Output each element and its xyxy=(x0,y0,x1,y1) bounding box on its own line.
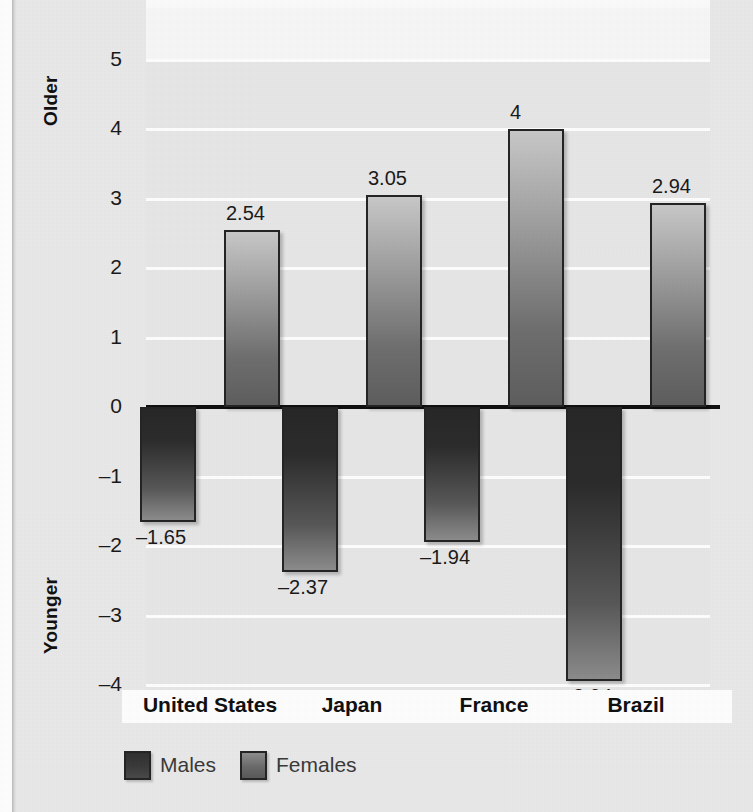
chart-legend: MalesFemales xyxy=(124,748,381,782)
gridline xyxy=(146,198,710,201)
scan-edge-shadow xyxy=(12,0,16,812)
gridline xyxy=(146,684,710,687)
y-axis-tick-label: 4 xyxy=(78,116,122,140)
bar-br-males xyxy=(566,407,622,681)
y-axis-tick-label: 2 xyxy=(78,255,122,279)
legend-item-males[interactable]: Males xyxy=(124,751,216,780)
y-axis-tick-label: –3 xyxy=(78,603,122,627)
bar-value-label-fr-females: 4 xyxy=(510,101,521,124)
bar-value-label-br-females: 2.94 xyxy=(652,175,691,198)
bar-value-label-us-males: –1.65 xyxy=(136,526,186,549)
bar-value-label-jp-females: 3.05 xyxy=(368,167,407,190)
chart-page: 543210–1–2–3–4 Older Younger –1.652.54–2… xyxy=(0,0,753,812)
legend-label-females: Females xyxy=(276,753,357,777)
bar-us-males xyxy=(140,407,196,522)
y-axis-tick-label: 3 xyxy=(78,186,122,210)
scan-gutter xyxy=(0,0,12,812)
bar-jp-females xyxy=(366,195,422,407)
bar-us-females xyxy=(224,230,280,407)
bar-br-females xyxy=(650,203,706,407)
bar-value-label-jp-males: –2.37 xyxy=(278,576,328,599)
bar-value-label-fr-males: –1.94 xyxy=(420,546,470,569)
bar-fr-females xyxy=(508,129,564,407)
y-axis-tick-label: 5 xyxy=(78,47,122,71)
axis-label-older: Older xyxy=(40,75,62,126)
category-label-br: Brazil xyxy=(546,693,726,717)
y-axis-tick-label: 1 xyxy=(78,325,122,349)
plot-area xyxy=(146,8,710,690)
gridline xyxy=(146,59,710,62)
bar-jp-males xyxy=(282,407,338,572)
y-axis-tick-label: –4 xyxy=(78,672,122,696)
gridline xyxy=(146,615,710,618)
legend-swatch-females-icon xyxy=(240,751,267,780)
gridline xyxy=(146,128,710,131)
y-axis-tick-label: 0 xyxy=(78,394,122,418)
plot-top-band xyxy=(146,8,710,62)
y-axis-tick-label: –2 xyxy=(78,533,122,557)
bar-fr-males xyxy=(424,407,480,542)
legend-item-females[interactable]: Females xyxy=(240,751,357,780)
legend-swatch-males-icon xyxy=(124,751,151,780)
axis-label-younger: Younger xyxy=(40,577,62,654)
legend-label-males: Males xyxy=(160,753,216,777)
y-axis-tick-label: –1 xyxy=(78,464,122,488)
bar-value-label-us-females: 2.54 xyxy=(226,202,265,225)
